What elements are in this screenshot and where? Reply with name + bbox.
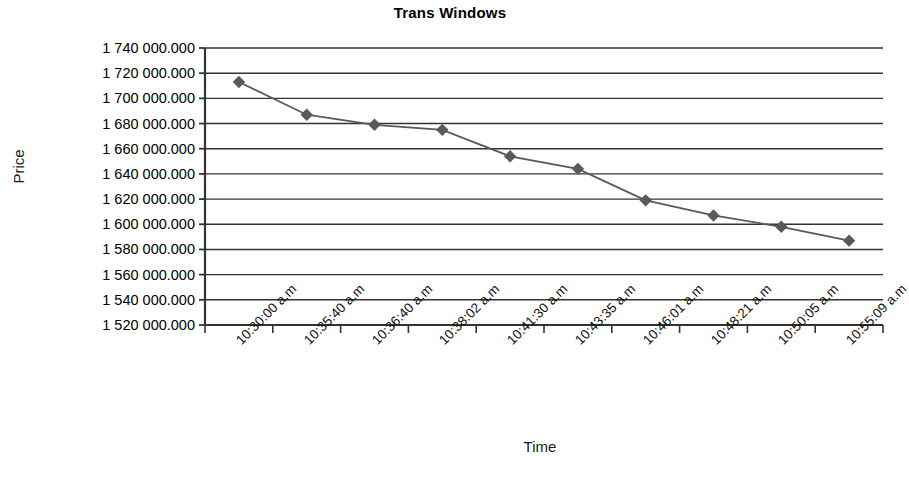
y-tick-label: 1 540 000.000: [5, 293, 195, 307]
series-line: [239, 82, 849, 241]
data-point-marker: [640, 194, 652, 206]
y-tick-label: 1 600 000.000: [5, 217, 195, 231]
chart-title: Trans Windows: [0, 4, 900, 21]
data-point-marker: [233, 76, 245, 88]
y-tick-label: 1 660 000.000: [5, 142, 195, 156]
data-point-marker: [368, 119, 380, 131]
data-point-marker: [504, 150, 516, 162]
y-tick-label: 1 580 000.000: [5, 242, 195, 256]
y-tick-label: 1 640 000.000: [5, 167, 195, 181]
data-point-marker: [707, 209, 719, 221]
data-point-marker: [301, 109, 313, 121]
data-point-marker: [843, 234, 855, 246]
data-series-price: [205, 48, 883, 325]
data-point-marker: [436, 124, 448, 136]
data-point-marker: [775, 221, 787, 233]
y-tick-label: 1 720 000.000: [5, 66, 195, 80]
y-tick-label: 1 680 000.000: [5, 117, 195, 131]
plot-area: [205, 48, 883, 325]
x-axis-title: Time: [190, 438, 890, 455]
y-tick-label: 1 520 000.000: [5, 318, 195, 332]
y-axis-tick-labels: 1 740 000.0001 720 000.0001 700 000.0001…: [5, 48, 195, 325]
data-point-marker: [572, 163, 584, 175]
y-tick-label: 1 700 000.000: [5, 91, 195, 105]
y-tick-label: 1 620 000.000: [5, 192, 195, 206]
x-axis-tick-labels: 10:30:00 a.m10:35:40 a.m10:36:40 a.m10:3…: [205, 325, 883, 435]
y-tick-label: 1 560 000.000: [5, 268, 195, 282]
y-tick-label: 1 740 000.000: [5, 41, 195, 55]
